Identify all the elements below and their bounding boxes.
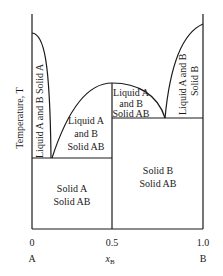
x-axis-label: xB <box>104 253 114 266</box>
phase-diagram: Temperature, T Liquid A and B Solid A Li… <box>0 0 223 276</box>
region-right-liquid-2: Solid B <box>189 65 200 96</box>
region-bottom-left-1: Solid A <box>57 183 88 194</box>
x-tick-1-0: 1.0 <box>197 237 210 248</box>
region-mid-left-2: and B <box>74 128 98 139</box>
component-b-label: B <box>200 253 207 264</box>
x-tick-0: 0 <box>30 237 35 248</box>
x-tick-0-5: 0.5 <box>106 237 119 248</box>
region-left-liquid: Liquid A and B Solid A <box>34 63 45 158</box>
region-bottom-right-1: Solid B <box>143 165 174 176</box>
region-bottom-left-2: Solid AB <box>54 196 91 207</box>
region-top-mid-1: Liquid A <box>113 87 150 98</box>
region-mid-left-1: Liquid A <box>68 115 105 126</box>
component-a-label: A <box>28 253 36 264</box>
region-right-liquid-1: Liquid A and B <box>177 53 188 115</box>
region-mid-left-3: Solid AB <box>68 141 105 152</box>
region-top-mid-3: Solid AB <box>113 108 150 119</box>
region-bottom-right-2: Solid AB <box>140 178 177 189</box>
y-axis-label: Temperature, T <box>14 87 25 148</box>
